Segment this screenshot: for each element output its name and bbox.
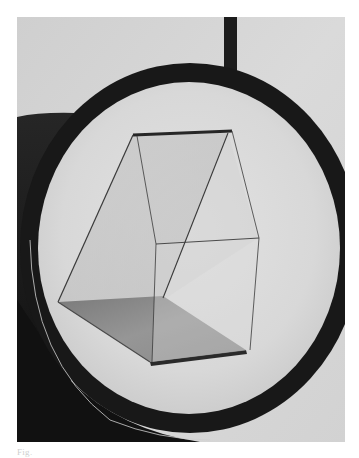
prism-front-face bbox=[152, 238, 259, 362]
figure-caption: Fig. bbox=[17, 446, 345, 458]
figure-photograph bbox=[17, 17, 345, 442]
photo-illustration bbox=[17, 17, 345, 442]
